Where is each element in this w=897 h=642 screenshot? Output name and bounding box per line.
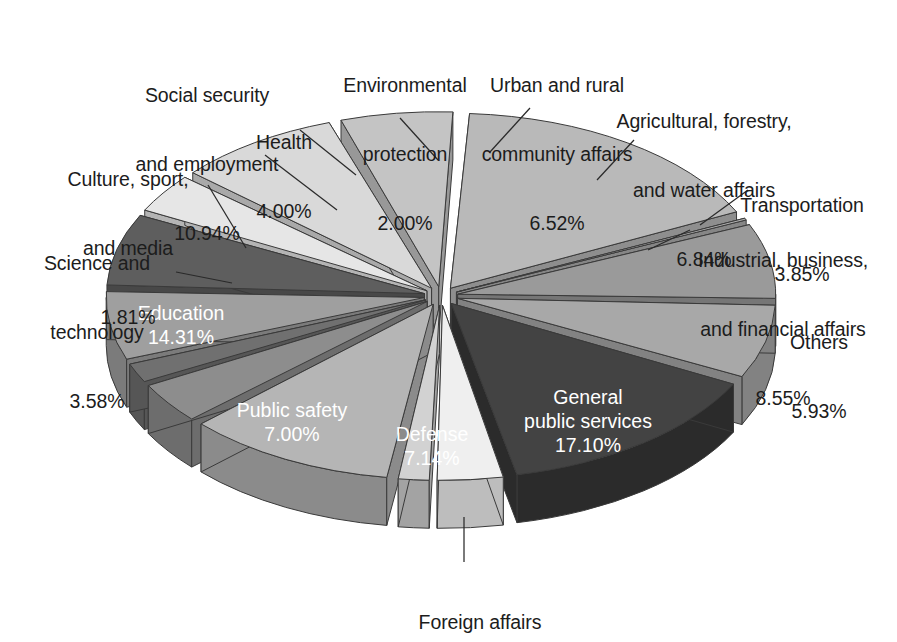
label-line-1: Industrial, business, bbox=[672, 249, 894, 272]
label-environmental-protection: Environmental protection 2.00% bbox=[325, 28, 485, 281]
label-others: Others 5.93% bbox=[756, 285, 882, 469]
label-line-1: Foreign affairs bbox=[388, 611, 572, 634]
label-line-1: Agricultural, forestry, bbox=[598, 110, 810, 133]
label-science-and-technology: Science and technology 3.58% bbox=[8, 206, 186, 459]
label-health: Health 4.00% bbox=[236, 85, 332, 269]
label-line-2: technology bbox=[8, 321, 186, 344]
label-foreign-affairs: Foreign affairs 0.43% bbox=[388, 565, 572, 642]
label-line-1: Health bbox=[236, 131, 332, 154]
label-line-1: Environmental bbox=[325, 74, 485, 97]
label-value: 5.93% bbox=[756, 400, 882, 423]
label-value: 2.00% bbox=[325, 212, 485, 235]
label-line-2: protection bbox=[325, 143, 485, 166]
label-line-1: Culture, sport, bbox=[28, 168, 228, 191]
label-value: 3.58% bbox=[8, 390, 186, 413]
pie-chart-figure: Generalpublic services17.10%Defense7.14%… bbox=[0, 0, 897, 642]
label-value: 4.00% bbox=[236, 200, 332, 223]
label-line-1: Others bbox=[756, 331, 882, 354]
label-line-1: Science and bbox=[8, 252, 186, 275]
